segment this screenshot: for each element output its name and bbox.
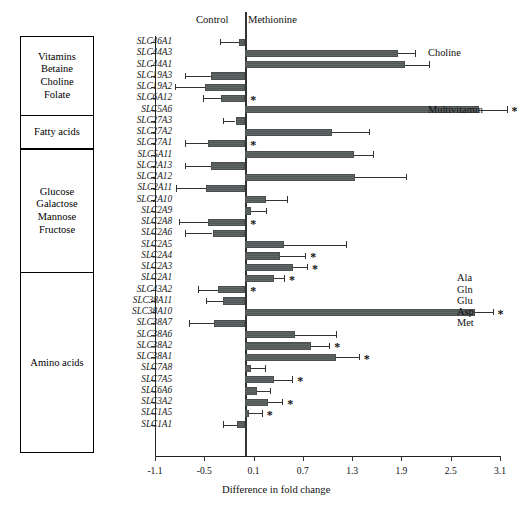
x-tick (352, 456, 353, 461)
bar (245, 241, 284, 248)
y-tick (151, 211, 156, 212)
y-tick (151, 413, 156, 414)
bar (245, 275, 274, 282)
error-bar-cap (185, 73, 186, 80)
category-label: Galactose (36, 198, 77, 211)
y-tick (151, 278, 156, 279)
significance-star: * (250, 220, 256, 228)
x-tick (254, 456, 255, 461)
bar (221, 95, 246, 102)
error-bar (295, 335, 336, 336)
error-bar-cap (507, 106, 508, 113)
bar (214, 320, 245, 327)
error-bar-cap (429, 61, 430, 68)
x-tick (401, 456, 402, 461)
error-bar-cap (369, 129, 370, 136)
error-bar (355, 177, 405, 178)
error-bar (475, 312, 492, 313)
error-bar-cap (406, 174, 407, 181)
x-tick-label: 1.9 (381, 465, 421, 476)
y-tick (151, 188, 156, 189)
right-annotation: Met (457, 317, 474, 328)
error-bar (251, 368, 265, 369)
y-tick (151, 132, 156, 133)
bar (245, 174, 355, 181)
error-bar (185, 233, 212, 234)
y-tick (151, 98, 156, 99)
y-tick (151, 42, 156, 43)
error-bar (223, 121, 235, 122)
x-tick-label: -0.5 (184, 465, 224, 476)
y-tick (151, 121, 156, 122)
error-bar (185, 166, 211, 167)
error-bar (220, 42, 239, 43)
bar (245, 354, 335, 361)
error-bar-cap (265, 365, 266, 372)
y-tick (151, 143, 156, 144)
error-bar-cap (220, 39, 221, 46)
error-bar-cap (287, 196, 288, 203)
significance-star: * (267, 411, 273, 419)
error-bar (179, 222, 208, 223)
bar (218, 286, 245, 293)
error-bar (203, 98, 220, 99)
error-bar (311, 346, 329, 347)
y-tick (151, 368, 156, 369)
category-label: Folate (44, 89, 70, 102)
bar (245, 376, 274, 383)
bar (245, 196, 266, 203)
y-tick (151, 391, 156, 392)
bar (245, 309, 475, 316)
error-bar (284, 245, 346, 246)
bar (245, 50, 398, 57)
error-bar (251, 211, 266, 212)
bar (245, 387, 257, 394)
y-tick (151, 155, 156, 156)
header-control: Control (196, 14, 228, 25)
error-bar (336, 357, 359, 358)
bar (245, 342, 311, 349)
y-tick (151, 346, 156, 347)
significance-star: * (312, 265, 318, 273)
category-label: Glucose (40, 186, 74, 199)
error-bar-cap (176, 185, 177, 192)
bar (245, 151, 353, 158)
x-tick (155, 456, 156, 461)
y-tick (151, 290, 156, 291)
x-tick-label: 0.7 (283, 465, 323, 476)
error-bar (185, 143, 208, 144)
bar (245, 264, 293, 271)
y-tick (151, 200, 156, 201)
error-bar-cap (198, 286, 199, 293)
error-bar-cap (206, 298, 207, 305)
right-annotation: Asp (457, 306, 474, 317)
error-bar-cap (203, 95, 204, 102)
error-bar-cap (262, 410, 263, 417)
error-bar-cap (329, 343, 330, 350)
category-label: Fructose (39, 224, 75, 237)
x-tick-label: 1.3 (332, 465, 372, 476)
right-annotation: Gln (457, 284, 473, 295)
category-label: Vitamins (38, 51, 76, 64)
error-bar (189, 323, 214, 324)
right-annotation: Glu (457, 295, 473, 306)
y-tick (151, 256, 156, 257)
error-bar-cap (284, 275, 285, 282)
y-tick (151, 53, 156, 54)
significance-star: * (512, 107, 518, 115)
bar (208, 219, 246, 226)
error-bar (249, 413, 261, 414)
y-tick (151, 357, 156, 358)
significance-star: * (250, 287, 256, 295)
significance-star: * (334, 343, 340, 351)
significance-star: * (287, 400, 293, 408)
category-box-amino-acids: Amino acids (20, 272, 94, 453)
error-bar (257, 391, 270, 392)
header-methionine: Methionine (248, 14, 297, 25)
y-tick (151, 245, 156, 246)
error-bar-cap (175, 84, 176, 91)
x-tick (303, 456, 304, 461)
x-tick (500, 456, 501, 461)
plot-area: ************** (155, 36, 500, 456)
bar (205, 84, 245, 91)
